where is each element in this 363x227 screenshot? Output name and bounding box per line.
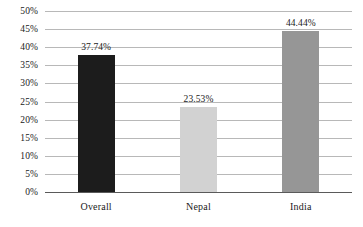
bar-group: 37.74% xyxy=(78,11,115,192)
bar xyxy=(282,31,319,192)
bar xyxy=(78,55,115,192)
bar-value-label: 37.74% xyxy=(81,42,111,52)
y-axis-tick-label: 30% xyxy=(20,78,38,88)
y-axis-tick-labels: 0%5%10%15%20%25%30%35%40%45%50% xyxy=(0,0,45,227)
y-axis-tick-label: 10% xyxy=(20,151,38,161)
y-axis-tick-label: 15% xyxy=(20,133,38,143)
y-axis-tick-label: 0% xyxy=(25,187,38,197)
y-axis-tick-label: 45% xyxy=(20,24,38,34)
y-axis-tick-label: 25% xyxy=(20,97,38,107)
y-axis-tick-label: 35% xyxy=(20,60,38,70)
x-axis-category-labels: OverallNepalIndia xyxy=(45,193,352,227)
x-axis-category-label: India xyxy=(290,201,312,212)
plot-area: 37.74%23.53%44.44% xyxy=(45,11,352,192)
bar-group: 23.53% xyxy=(180,11,217,192)
bar-value-label: 23.53% xyxy=(184,94,214,104)
bar-value-label: 44.44% xyxy=(286,18,316,28)
y-axis-tick-label: 20% xyxy=(20,115,38,125)
bars-layer: 37.74%23.53%44.44% xyxy=(45,11,352,192)
x-axis-category-label: Nepal xyxy=(186,201,211,212)
y-axis-tick-label: 40% xyxy=(20,42,38,52)
bar xyxy=(180,107,217,192)
y-axis-tick-label: 50% xyxy=(20,6,38,16)
y-axis-tick-label: 5% xyxy=(25,169,38,179)
bar-chart: 0%5%10%15%20%25%30%35%40%45%50% 37.74%23… xyxy=(0,0,363,227)
bar-group: 44.44% xyxy=(282,11,319,192)
x-axis-category-label: Overall xyxy=(80,201,111,212)
